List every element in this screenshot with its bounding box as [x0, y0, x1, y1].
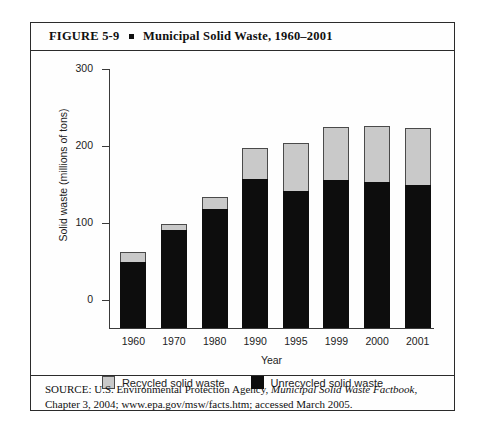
- bar-segment-recycled-2001[interactable]: [405, 128, 431, 185]
- bar-segment-recycled-1980[interactable]: [202, 197, 228, 209]
- bars-layer: [109, 69, 434, 328]
- bar-segment-recycled-1970[interactable]: [161, 224, 187, 231]
- y-axis-title: Solid waste (millions of tons): [57, 80, 69, 270]
- y-tick-label-200: 200: [53, 139, 93, 151]
- bar-1960[interactable]: [120, 252, 146, 328]
- bar-segment-unrecycled-2001[interactable]: [405, 185, 431, 328]
- y-tick-label-0: 0: [53, 293, 93, 305]
- y-tick-label-300: 300: [53, 62, 93, 74]
- bar-1970[interactable]: [161, 224, 187, 328]
- source-title-italic: Municipal Solid Waste Factbook: [271, 383, 415, 395]
- source-note: SOURCE: U.S. Environmental Protection Ag…: [45, 382, 443, 411]
- bar-segment-unrecycled-1980[interactable]: [202, 209, 228, 328]
- page-title: FIGURE 5-9 Municipal Solid Waste, 1960–2…: [49, 29, 333, 44]
- bar-segment-unrecycled-2000[interactable]: [364, 182, 390, 328]
- chart-plot-area: Solid waste (millions of tons) 300 200 1…: [31, 51, 454, 381]
- bar-segment-recycled-1999[interactable]: [323, 127, 349, 181]
- bar-segment-unrecycled-1999[interactable]: [323, 180, 349, 328]
- square-bullet-icon: [129, 34, 134, 39]
- bar-segment-recycled-1960[interactable]: [120, 252, 146, 261]
- figure-frame: FIGURE 5-9 Municipal Solid Waste, 1960–2…: [30, 22, 455, 411]
- y-tick-label-100: 100: [53, 216, 93, 228]
- x-axis-title: Year: [109, 354, 434, 366]
- bar-1999[interactable]: [323, 127, 349, 328]
- bar-2000[interactable]: [364, 126, 390, 328]
- figure-title-bar: FIGURE 5-9 Municipal Solid Waste, 1960–2…: [31, 23, 454, 51]
- bar-segment-recycled-1990[interactable]: [242, 148, 268, 178]
- bar-1980[interactable]: [202, 197, 228, 328]
- bar-segment-unrecycled-1960[interactable]: [120, 262, 146, 328]
- x-axis-line: [109, 328, 434, 329]
- bar-segment-unrecycled-1995[interactable]: [283, 191, 309, 328]
- source-prefix: SOURCE: U.S. Environmental Protection Ag…: [45, 383, 271, 395]
- figure-title: Municipal Solid Waste, 1960–2001: [143, 29, 333, 43]
- bar-2001[interactable]: [405, 128, 431, 328]
- figure-number: FIGURE 5-9: [49, 29, 119, 43]
- bar-1990[interactable]: [242, 148, 268, 328]
- bar-1995[interactable]: [283, 143, 309, 328]
- source-divider: [31, 375, 454, 376]
- bar-segment-unrecycled-1990[interactable]: [242, 179, 268, 328]
- bar-segment-recycled-2000[interactable]: [364, 126, 390, 182]
- bar-segment-unrecycled-1970[interactable]: [161, 230, 187, 328]
- bar-segment-recycled-1995[interactable]: [283, 143, 309, 190]
- x-axis-label-2001: 2001: [391, 335, 445, 347]
